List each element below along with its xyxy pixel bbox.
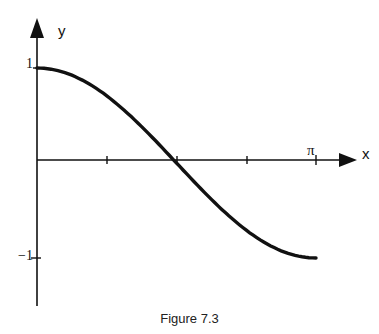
y-ticks xyxy=(31,68,41,258)
y-axis-label: y xyxy=(58,23,66,38)
cosine-plot xyxy=(0,0,379,334)
x-axis-arrow-icon xyxy=(339,153,357,167)
cosine-curve xyxy=(37,68,316,258)
x-axis-label: x xyxy=(362,146,370,161)
figure-caption: Figure 7.3 xyxy=(0,311,379,326)
x-tick-label-pi: π xyxy=(307,143,315,158)
y-tick-label-minus-1: −1 xyxy=(18,249,33,263)
y-axis-arrow-icon xyxy=(30,18,44,38)
y-tick-label-1: 1 xyxy=(26,57,33,71)
